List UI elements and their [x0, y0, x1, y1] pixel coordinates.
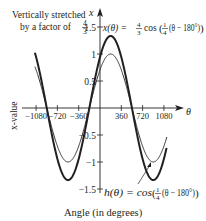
svg-text:h(θ) = cos: h(θ) = cos — [104, 188, 152, 199]
x-tick-label: 1080 — [155, 111, 172, 121]
y-tick-label: −1 — [86, 158, 96, 168]
y-tick-label: −1.5 — [79, 185, 96, 195]
x-tick-label: 360 — [115, 111, 128, 121]
x-axis-label: Angle (in degrees) — [64, 207, 143, 219]
y-axis-label: x-value — [9, 102, 19, 131]
stretch-annotation-line1: Vertically stretched — [12, 10, 86, 20]
x-tick-label: 720 — [136, 111, 149, 121]
y-axis-symbol: x — [88, 7, 94, 18]
svg-text:x(θ) =: x(θ) = — [102, 23, 127, 34]
y-tick-label: 0.5 — [84, 77, 96, 87]
y-tick-label: −0.5 — [79, 131, 96, 141]
svg-text:4: 4 — [137, 21, 141, 29]
x-function-label: x(θ) = 4 3 cos ( 1 4 (θ − 180°) ) — [102, 21, 204, 37]
svg-text:(θ − 180°): (θ − 180°) — [162, 188, 195, 199]
svg-text:4: 4 — [156, 194, 160, 202]
svg-text:): ) — [200, 22, 204, 35]
stretch-annotation-line2: by a factor of — [20, 22, 72, 32]
h-function-label: h(θ) = cos ( 1 4 (θ − 180°) ) — [104, 186, 199, 202]
x-axis-symbol: θ — [186, 106, 191, 117]
y-ticks: 1.510.5−0.5−1−1.5 — [79, 23, 103, 195]
svg-text:(θ − 180°): (θ − 180°) — [169, 23, 200, 34]
x-tick-label: −1080 — [25, 111, 47, 121]
x-tick-label: −720 — [49, 111, 67, 121]
y-tick-label: 1 — [91, 50, 96, 60]
svg-text:): ) — [195, 187, 199, 200]
svg-text:4: 4 — [163, 29, 167, 37]
x-tick-label: −360 — [70, 111, 88, 121]
svg-text:3: 3 — [83, 27, 87, 36]
chart-canvas: −1080−720−3603607201080 1.510.5−0.5−1−1.… — [0, 0, 206, 221]
arrowhead-icon — [147, 162, 151, 167]
svg-text:3: 3 — [137, 29, 141, 37]
svg-text:1: 1 — [163, 21, 167, 29]
svg-text:cos: cos — [144, 23, 157, 33]
svg-text:1: 1 — [156, 186, 160, 194]
